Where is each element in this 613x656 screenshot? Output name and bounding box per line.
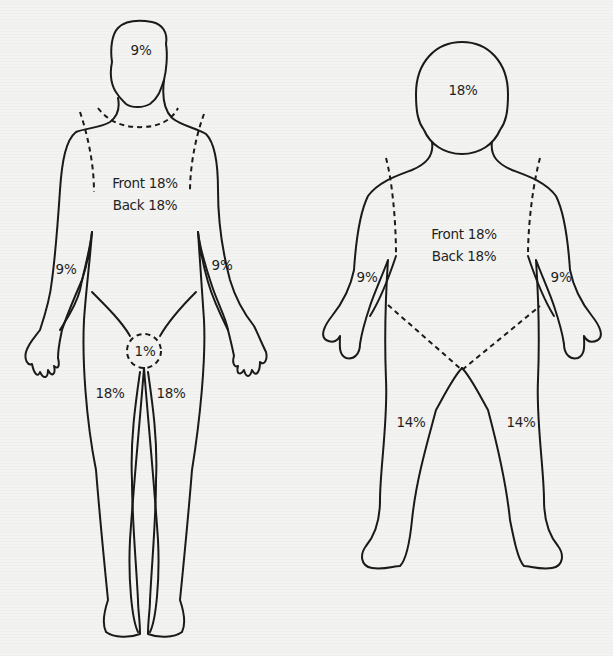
child-figure [323, 42, 601, 569]
child-trunk-leg-boundary [388, 305, 540, 370]
adult-shoulder-boundary-left [80, 112, 94, 192]
adult-leg-right-percent: 18% [95, 382, 124, 404]
child-body-left-outline [323, 142, 462, 569]
child-leg-right-percent: 14% [396, 411, 425, 433]
child-shoulder-boundary-left [386, 158, 396, 256]
adult-groin-left [92, 292, 130, 336]
adult-trunk-back-percent: Back 18% [113, 194, 178, 216]
adult-groin-right [160, 292, 196, 336]
child-leg-left-percent: 14% [506, 411, 535, 433]
adult-arm-left-percent: 9% [212, 254, 233, 276]
child-trunk-back-percent: Back 18% [432, 245, 497, 267]
adult-trunk-front-percent: Front 18% [112, 172, 178, 194]
adult-figure [25, 21, 266, 637]
adult-head-outline [111, 21, 167, 107]
child-arm-right-percent: 9% [357, 266, 378, 288]
adult-body-right-outline [148, 80, 267, 637]
child-arm-left-percent: 9% [551, 266, 572, 288]
child-trunk-front-percent: Front 18% [431, 223, 497, 245]
adult-arm-right-percent: 9% [56, 258, 77, 280]
child-shoulder-boundary-right [528, 158, 540, 256]
adult-head-percent: 9% [131, 39, 152, 61]
adult-perineum-percent: 1% [135, 340, 156, 362]
adult-shoulder-boundary-right [190, 114, 204, 192]
adult-leg-left-percent: 18% [156, 382, 185, 404]
rule-of-nines-diagram [0, 0, 613, 656]
child-head-percent: 18% [448, 79, 477, 101]
